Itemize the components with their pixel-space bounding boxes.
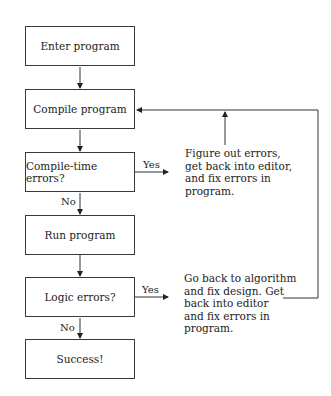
node-label: Logic errors?: [44, 291, 115, 303]
node-label: Run program: [45, 229, 116, 241]
node-label: Compile-time errors?: [26, 160, 134, 184]
note-compile-fix: Figure out errors, get back into editor,…: [185, 147, 292, 197]
flowchart-canvas: Enter program Compile program Compile-ti…: [0, 0, 331, 396]
node-compile-program: Compile program: [25, 89, 135, 129]
node-label: Enter program: [40, 40, 119, 52]
node-enter-program: Enter program: [25, 26, 135, 66]
edge-label-compile-yes: Yes: [143, 159, 160, 170]
node-success: Success!: [25, 339, 135, 379]
node-run-program: Run program: [25, 215, 135, 255]
node-compile-time-errors: Compile-time errors?: [25, 152, 135, 192]
edge-label-logic-yes: Yes: [142, 284, 159, 295]
node-label: Compile program: [33, 103, 126, 115]
note-logic-fix: Go back to algorithm and fix design. Get…: [184, 272, 296, 335]
edge-label-compile-no: No: [61, 196, 76, 207]
node-label: Success!: [57, 353, 104, 365]
node-logic-errors: Logic errors?: [25, 277, 135, 317]
edge-label-logic-no: No: [60, 322, 75, 333]
